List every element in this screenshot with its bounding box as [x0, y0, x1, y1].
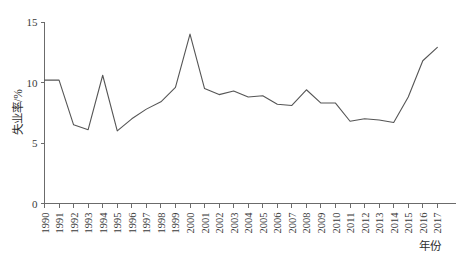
x-tick-label: 2017	[432, 213, 443, 234]
x-tick-label: 2011	[345, 213, 356, 234]
x-tick-label: 2006	[272, 213, 283, 234]
x-tick-label: 1998	[156, 213, 167, 234]
y-tick-label: 0	[32, 198, 38, 210]
unemployment-rate-line-chart: 051015 失业率/% 199019911992199319941995199…	[0, 0, 469, 257]
y-tick-labels: 051015	[27, 16, 39, 210]
x-tick-label: 2015	[403, 213, 414, 234]
x-tick-label: 1999	[170, 213, 181, 234]
y-axis-title: 失业率/%	[11, 89, 24, 135]
x-tick-label: 1992	[69, 213, 80, 234]
x-tick-label: 1991	[54, 213, 65, 234]
x-tick-label: 2013	[374, 213, 385, 234]
x-tick-label: 2005	[258, 213, 269, 234]
x-tick-label: 2000	[185, 213, 196, 234]
x-tick-label: 2004	[243, 212, 254, 234]
unemployment-series-line	[45, 34, 438, 131]
chart-canvas: 051015 失业率/% 199019911992199319941995199…	[0, 0, 469, 257]
x-tick-label: 2010	[331, 213, 342, 234]
y-axis-group: 051015 失业率/%	[11, 16, 45, 210]
x-tick-label: 2008	[301, 213, 312, 234]
x-tick-label: 1996	[127, 213, 138, 234]
x-tick-label: 1995	[112, 213, 123, 234]
x-tick-label: 2003	[229, 213, 240, 234]
x-tick-label: 1994	[98, 212, 109, 234]
x-axis-group: 1990199119921993199419951996199719981999…	[40, 204, 457, 253]
x-tick-label: 2012	[360, 213, 371, 234]
x-tick-label: 1997	[141, 213, 152, 234]
x-tick-label: 2016	[418, 213, 429, 234]
x-tick-label: 1993	[83, 213, 94, 234]
x-tick-label: 1990	[40, 213, 51, 234]
y-tick-marks	[41, 22, 45, 204]
x-tick-label: 2009	[316, 213, 327, 234]
x-axis-title: 年份	[419, 239, 442, 252]
x-tick-label: 2001	[200, 213, 211, 234]
y-tick-label: 10	[27, 77, 39, 89]
x-tick-labels: 1990199119921993199419951996199719981999…	[40, 212, 444, 234]
y-tick-label: 5	[32, 137, 38, 149]
x-tick-label: 2014	[389, 212, 400, 234]
y-tick-label: 15	[27, 16, 39, 28]
x-tick-label: 2007	[287, 213, 298, 234]
x-tick-label: 2002	[214, 213, 225, 234]
x-tick-marks	[45, 204, 438, 208]
